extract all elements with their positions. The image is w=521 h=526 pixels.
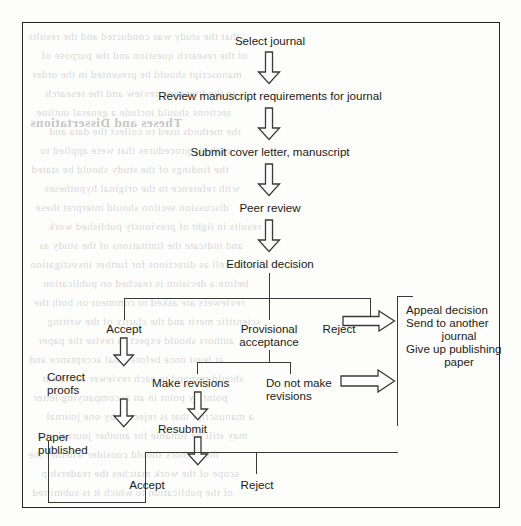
connector-provisional-bar — [197, 362, 291, 363]
arrow-down-icon — [112, 337, 136, 367]
arrow-down-icon — [186, 436, 210, 466]
connector-accept-loop-bottom — [48, 502, 146, 503]
node-accept-2: Accept — [116, 478, 178, 492]
node-accept: Accept — [92, 322, 156, 336]
arrow-right-icon — [342, 310, 396, 332]
arrow-right-icon — [340, 369, 396, 393]
node-outcome-journal: journal — [406, 329, 512, 343]
connector-branch-bar — [124, 298, 371, 299]
node-paper-published-line1: Paper — [38, 430, 118, 444]
arrow-down-icon — [256, 51, 282, 85]
connector-branch-center-drop — [269, 298, 270, 320]
connector-accept-loop-riser — [48, 440, 49, 503]
node-make-revisions: Make revisions — [152, 376, 244, 390]
connector-bottom-bar — [145, 452, 398, 453]
node-correct-proofs-line2: proofs — [47, 383, 127, 397]
node-editorial-decision: Editorial decision — [200, 257, 340, 271]
connector-outcomes-bracket-spine — [397, 296, 398, 426]
node-provisional-acceptance-line1: Provisional — [224, 322, 314, 336]
connector-outcomes-bracket-top — [397, 296, 413, 297]
node-outcome-send-another: Send to another — [406, 316, 518, 330]
connector-provisional-right-drop — [290, 362, 291, 374]
node-reject-2: Reject — [226, 478, 288, 492]
node-outcome-give-up: Give up publishing — [406, 342, 518, 356]
node-submit: Submit cover letter, manuscript — [175, 145, 365, 159]
arrow-down-icon — [112, 398, 136, 428]
arrow-down-icon — [256, 163, 282, 197]
node-outcome-appeal-decision: Appeal decision — [406, 303, 518, 317]
connector-provisional-left-drop — [197, 362, 198, 374]
connector-editorial-stem — [269, 273, 270, 299]
node-correct-proofs-line1: Correct — [47, 370, 127, 384]
arrow-down-icon — [186, 391, 210, 421]
node-resubmit: Resubmit — [158, 422, 240, 436]
arrow-down-icon — [256, 107, 282, 141]
flowchart-page: that the study was conducted and the res… — [0, 0, 521, 526]
node-provisional-acceptance-line2: acceptance — [224, 335, 314, 349]
node-review-requirements: Review manuscript requirements for journ… — [148, 89, 392, 103]
connector-branch-left-drop — [124, 298, 125, 320]
arrow-down-icon — [256, 219, 282, 253]
node-peer-review: Peer review — [208, 201, 332, 215]
node-outcome-paper: paper — [406, 355, 512, 369]
node-paper-published-line2: published — [38, 443, 118, 457]
connector-bottom-right-drop — [256, 452, 257, 474]
connector-provisional-stem — [269, 350, 270, 362]
node-select-journal: Select journal — [190, 34, 350, 48]
